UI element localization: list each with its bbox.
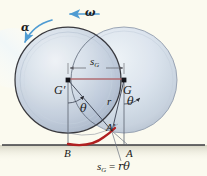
rolling-disk-diagram xyxy=(0,0,207,176)
ground-shadow xyxy=(0,145,207,161)
center-dot-G xyxy=(122,78,127,83)
center-dot-Gprime xyxy=(66,78,71,83)
